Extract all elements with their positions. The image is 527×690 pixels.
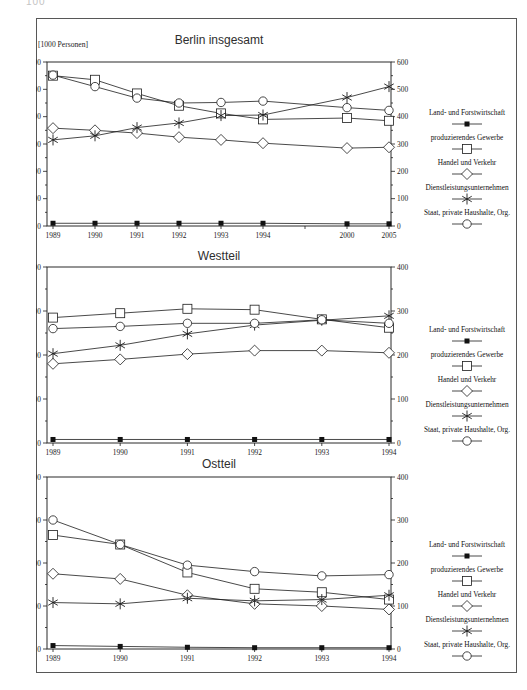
line-chart-canvas: 0010010020020030030040040050050060060019…: [36, 18, 417, 248]
legend-label: Handel und Verkehr: [412, 590, 522, 599]
legend-item: Handel und Verkehr: [412, 590, 522, 615]
legend-label: Staat, private Haushalte, Org.: [412, 208, 522, 217]
svg-text:1993: 1993: [314, 654, 329, 663]
legend-item: Dienstleistungsunternehmen: [412, 400, 522, 425]
svg-text:600: 600: [397, 58, 408, 67]
legend-item: Land- und Forstwirtschaft: [412, 540, 522, 565]
legend-label: Land- und Forstwirtschaft: [412, 540, 522, 549]
legend-label: Dienstleistungsunternehmen: [412, 615, 522, 624]
diamond-marker-icon: [449, 600, 485, 612]
svg-text:400: 400: [36, 112, 41, 121]
svg-text:200: 200: [397, 559, 408, 568]
legend-label: Staat, private Haushalte, Org.: [412, 425, 522, 434]
svg-text:200: 200: [397, 167, 408, 176]
svg-text:0: 0: [397, 645, 401, 654]
legend-item: Dienstleistungsunternehmen: [412, 183, 522, 208]
chart-legend: Land- und Forstwirtschaft produzierendes…: [412, 325, 522, 450]
svg-text:1992: 1992: [247, 448, 262, 457]
chart-legend: Land- und Forstwirtschaft produzierendes…: [412, 108, 522, 233]
legend-label: Staat, private Haushalte, Org.: [412, 640, 522, 649]
svg-text:300: 300: [36, 516, 41, 525]
svg-text:2000: 2000: [340, 231, 355, 240]
star-marker-icon: [449, 625, 485, 637]
svg-text:200: 200: [397, 351, 408, 360]
svg-text:300: 300: [36, 140, 41, 149]
svg-text:200: 200: [36, 559, 41, 568]
svg-text:1992: 1992: [172, 231, 187, 240]
svg-text:500: 500: [36, 85, 41, 94]
legend-item: Handel und Verkehr: [412, 375, 522, 400]
svg-text:0: 0: [397, 222, 401, 231]
star-marker-icon: [449, 410, 485, 422]
legend-label: Land- und Forstwirtschaft: [412, 325, 522, 334]
open-square-marker-icon: [449, 143, 485, 155]
legend-label: produzierendes Gewerbe: [412, 565, 522, 574]
svg-text:100: 100: [36, 395, 41, 404]
svg-text:1994: 1994: [256, 231, 271, 240]
svg-text:100: 100: [36, 194, 41, 203]
svg-text:300: 300: [397, 516, 408, 525]
svg-text:2005: 2005: [382, 231, 397, 240]
svg-text:400: 400: [397, 112, 408, 121]
svg-text:400: 400: [36, 473, 41, 482]
chart-legend: Land- und Forstwirtschaft produzierendes…: [412, 540, 522, 665]
svg-text:1989: 1989: [46, 654, 61, 663]
page-number: 100: [26, 0, 46, 7]
legend-label: Handel und Verkehr: [412, 375, 522, 384]
svg-text:600: 600: [36, 58, 41, 67]
svg-text:1994: 1994: [382, 654, 397, 663]
svg-text:400: 400: [397, 263, 408, 272]
legend-item: Land- und Forstwirtschaft: [412, 325, 522, 350]
legend-item: Dienstleistungsunternehmen: [412, 615, 522, 640]
svg-text:0: 0: [37, 645, 41, 654]
svg-text:100: 100: [397, 602, 408, 611]
svg-text:500: 500: [397, 85, 408, 94]
diamond-marker-icon: [449, 385, 485, 397]
circle-marker-icon: [449, 435, 485, 447]
legend-item: Handel und Verkehr: [412, 158, 522, 183]
svg-text:100: 100: [36, 602, 41, 611]
svg-text:300: 300: [36, 307, 41, 316]
svg-text:1992: 1992: [247, 654, 262, 663]
svg-text:1993: 1993: [314, 448, 329, 457]
filled-square-marker-icon: [449, 550, 485, 562]
svg-text:400: 400: [397, 473, 408, 482]
svg-text:1991: 1991: [180, 448, 195, 457]
svg-text:200: 200: [36, 167, 41, 176]
circle-marker-icon: [449, 218, 485, 230]
diamond-marker-icon: [449, 168, 485, 180]
legend-item: produzierendes Gewerbe: [412, 565, 522, 590]
svg-text:200: 200: [36, 351, 41, 360]
legend-label: Land- und Forstwirtschaft: [412, 108, 522, 117]
svg-text:1994: 1994: [382, 448, 397, 457]
filled-square-marker-icon: [449, 335, 485, 347]
star-marker-icon: [449, 193, 485, 205]
svg-text:300: 300: [397, 307, 408, 316]
legend-label: Handel und Verkehr: [412, 158, 522, 167]
legend-item: produzierendes Gewerbe: [412, 350, 522, 375]
svg-text:1991: 1991: [130, 231, 145, 240]
legend-item: Staat, private Haushalte, Org.: [412, 640, 522, 665]
line-chart-canvas: 0010010020020030030040040019891990199119…: [36, 458, 417, 670]
svg-text:1990: 1990: [113, 448, 128, 457]
svg-text:1989: 1989: [46, 448, 61, 457]
svg-text:1989: 1989: [46, 231, 61, 240]
filled-square-marker-icon: [449, 118, 485, 130]
svg-text:0: 0: [37, 222, 41, 231]
legend-label: Dienstleistungsunternehmen: [412, 183, 522, 192]
legend-item: Land- und Forstwirtschaft: [412, 108, 522, 133]
legend-item: produzierendes Gewerbe: [412, 133, 522, 158]
legend-item: Staat, private Haushalte, Org.: [412, 425, 522, 450]
svg-text:1993: 1993: [214, 231, 229, 240]
document-page: 100 Berlin insgesamt [1000 Personen] 001…: [0, 0, 527, 690]
circle-marker-icon: [449, 650, 485, 662]
svg-text:1990: 1990: [113, 654, 128, 663]
legend-item: Staat, private Haushalte, Org.: [412, 208, 522, 233]
svg-text:1991: 1991: [180, 654, 195, 663]
legend-label: produzierendes Gewerbe: [412, 133, 522, 142]
svg-text:300: 300: [397, 140, 408, 149]
svg-text:1990: 1990: [88, 231, 103, 240]
open-square-marker-icon: [449, 575, 485, 587]
legend-label: produzierendes Gewerbe: [412, 350, 522, 359]
svg-text:0: 0: [397, 439, 401, 448]
